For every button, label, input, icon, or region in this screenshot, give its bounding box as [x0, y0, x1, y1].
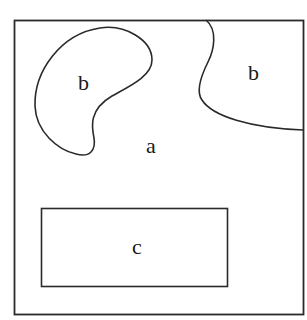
label-b-left: b — [78, 70, 89, 95]
left-blob-region — [35, 27, 152, 155]
label-c: c — [132, 234, 142, 259]
region-diagram: b b a c — [0, 0, 307, 320]
outer-region-border — [15, 21, 304, 315]
label-b-right: b — [248, 60, 259, 85]
label-a: a — [146, 133, 156, 158]
